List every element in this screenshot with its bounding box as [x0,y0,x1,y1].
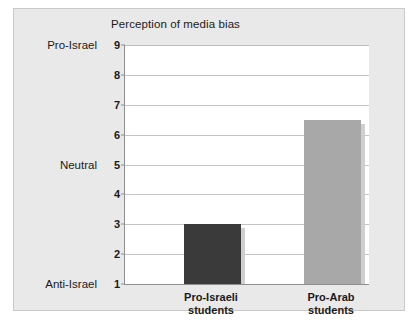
y-axis-tick-label: 5 [114,159,120,170]
bar [184,224,241,284]
gridline [125,105,369,106]
y-axis-tick-mark [121,284,125,285]
y-axis-scale-labels: Pro-IsraelNeutralAnti-Israel [14,45,97,284]
y-axis-scale-label: Neutral [60,159,97,171]
x-axis-category-label-line: students [151,304,271,317]
y-axis-tick-mark [121,164,125,165]
y-axis-tick-label: 7 [114,99,120,110]
gridline-top [125,45,369,46]
y-axis-tick-label: 2 [114,249,120,260]
chart-title: Perception of media bias [111,18,240,30]
y-axis-tick-label: 1 [114,279,120,290]
x-axis-category-label: Pro-Israelistudents [151,291,271,316]
x-axis-category-label: Pro-Arabstudents [271,291,391,316]
y-axis-tick-label: 3 [114,219,120,230]
y-axis-tick-mark [121,74,125,75]
bar [304,120,361,284]
x-axis-category-label-line: Pro-Arab [271,291,391,304]
y-axis-tick-mark [121,104,125,105]
chart-panel: Perception of media bias Pro-IsraelNeutr… [13,8,405,311]
y-axis-tick-mark [121,45,125,46]
y-axis-tick-mark [121,224,125,225]
gridline [125,75,369,76]
y-axis-tick-mark [121,134,125,135]
y-axis-scale-label: Pro-Israel [47,39,97,51]
y-axis-tick-label: 4 [114,189,120,200]
y-axis-tick-label: 8 [114,69,120,80]
y-axis-tick-label: 9 [114,40,120,51]
plot-area: 123456789 [124,45,369,285]
y-axis-tick-label: 6 [114,129,120,140]
x-axis-category-label-line: students [271,304,391,317]
y-axis-tick-mark [121,254,125,255]
y-axis-tick-mark [121,194,125,195]
y-axis-scale-label: Anti-Israel [45,278,97,290]
x-axis-category-label-line: Pro-Israeli [151,291,271,304]
